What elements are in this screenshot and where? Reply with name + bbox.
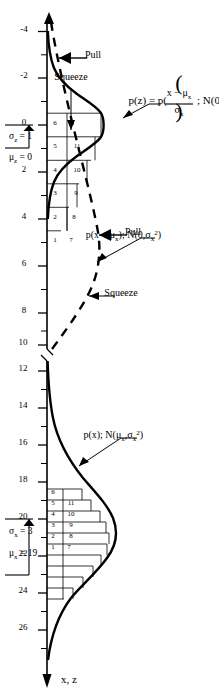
pull-arrow-bottom (59, 52, 87, 64)
z-tick-label: 10 (19, 337, 29, 347)
rotated-figure-container: -4 -2 0 2 4 6 8 10 (0, 0, 219, 697)
z-bin-label: 7 (69, 236, 73, 244)
x-bin-label: 1 (51, 543, 55, 551)
x-bin-label: 11 (68, 499, 75, 507)
z-tick-label: 8 (22, 305, 27, 315)
x-bin-label: 8 (69, 532, 73, 540)
axis-title: x, z (61, 673, 77, 685)
x-tick-label: 18 (19, 474, 29, 484)
x-bin-label: 6 (51, 488, 55, 496)
pull-arrowhead-bottom (59, 52, 71, 64)
x-bin-label: 2 (51, 532, 55, 540)
z-bin-label: 9 (74, 189, 78, 197)
centered-density-leader (97, 238, 155, 262)
z-density-label-head: p(z) = p( (128, 94, 167, 107)
z-tick-label: 2 (22, 164, 27, 174)
x-tick-labels: 12 14 16 18 20 22 24 26 (19, 363, 29, 632)
z-bin-label: 10 (74, 166, 82, 174)
figure-svg: -4 -2 0 2 4 6 8 10 (0, 0, 219, 697)
pull-label-bottom: Pull (85, 49, 101, 60)
x-axis-ticks (38, 371, 47, 649)
x-bin-label: 10 (68, 510, 76, 518)
z-density-label-tail: ; N(0,1) (197, 94, 219, 107)
z-density-leader (123, 104, 161, 118)
x-bin-label: 7 (67, 543, 71, 551)
z-tick-label: 6 (22, 258, 27, 268)
z-tick-label: -4 (20, 24, 28, 34)
x-tick-label: 12 (19, 363, 28, 373)
figure-canvas: -4 -2 0 2 4 6 8 10 (0, 0, 219, 697)
z-tick-label: 4 (22, 211, 27, 221)
x-tick-label: 16 (19, 437, 29, 447)
squeeze-label-top: Squeeze (104, 287, 138, 298)
x-bin-label: 5 (51, 499, 55, 507)
z-bin-label: 3 (53, 189, 57, 197)
x-mu-label: μx = 19 (9, 548, 37, 561)
x-density-leader (79, 438, 137, 466)
x-bin-label: 4 (51, 510, 55, 518)
x-tick-label: 14 (19, 400, 29, 410)
squeeze-arrowhead-bottom (67, 120, 75, 130)
squeeze-arrowhead-top (89, 292, 99, 300)
pull-label-top: Pull (125, 226, 141, 237)
x-tick-label: 24 (19, 585, 29, 595)
x-bin-label: 9 (69, 521, 73, 529)
x-tick-label: 26 (19, 622, 29, 632)
z-bin-label: 5 (53, 142, 57, 150)
axis-arrowhead (43, 674, 52, 688)
x-density-curve (48, 361, 116, 660)
z-axis-ticks (38, 32, 47, 346)
z-bin-label: 2 (53, 213, 57, 221)
z-bin-label: 8 (72, 213, 76, 221)
x-histogram (47, 489, 109, 599)
axis-break-marker (41, 349, 53, 361)
z-mu-label: μz = 0 (9, 152, 32, 165)
x-stats-labels: σx = 3 μx = 19 (9, 526, 37, 561)
z-density-label: p(z) = p( ( ) x − μx σx ; N(0,1) (128, 70, 219, 123)
x-bin-label: 3 (51, 521, 55, 529)
z-tick-labels: -4 -2 0 2 4 6 8 10 (19, 24, 29, 348)
distribution-figure: -4 -2 0 2 4 6 8 10 (0, 0, 219, 697)
squeeze-label-bottom: Squeeze (54, 71, 88, 82)
z-bin-label: 4 (53, 166, 57, 174)
dashed-curve-tail-arrow (44, 12, 54, 24)
z-bin-label: 1 (53, 236, 57, 244)
z-bin-label: 6 (53, 119, 57, 127)
z-tick-label: -2 (20, 70, 28, 80)
x-density-label: p(x); N(μx,σx2) (83, 429, 143, 443)
